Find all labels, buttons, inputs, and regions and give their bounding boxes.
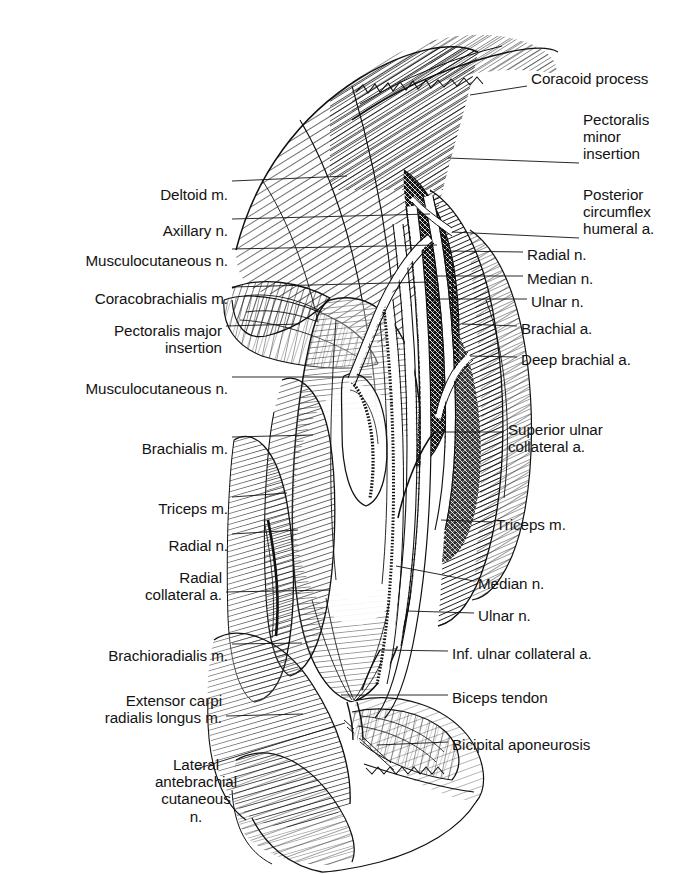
label-pcha: Posterior circumflex humeral a. bbox=[583, 186, 654, 238]
label-superior-ulnar: Superior ulnar collateral a. bbox=[508, 421, 603, 455]
label-ulnar-n-right: Ulnar n. bbox=[531, 293, 584, 310]
label-median-n-lower: Median n. bbox=[478, 575, 544, 592]
label-deltoid: Deltoid m. bbox=[160, 186, 228, 203]
label-radial-n-right: Radial n. bbox=[527, 246, 587, 263]
label-pec-major: Pectoralis major insertion bbox=[114, 322, 222, 356]
label-musculocutaneous-2: Musculocutaneous n. bbox=[85, 380, 228, 397]
label-radial-collateral: Radial collateral a. bbox=[145, 569, 222, 603]
label-coracobrachialis: Coracobrachialis m. bbox=[95, 290, 228, 307]
label-inf-ulnar: Inf. ulnar collateral a. bbox=[452, 645, 592, 662]
label-bicipital-apo: Bicipital aponeurosis bbox=[452, 736, 590, 753]
label-lacn: Lateral antebrachial cutaneous n. bbox=[86, 756, 306, 825]
label-axillary-n: Axillary n. bbox=[163, 222, 228, 239]
label-brachioradialis: Brachioradialis m. bbox=[108, 647, 228, 664]
label-deep-brachial-a: Deep brachial a. bbox=[521, 351, 631, 368]
label-biceps-tendon: Biceps tendon bbox=[452, 689, 548, 706]
label-pec-minor: Pectoralis minor insertion bbox=[583, 111, 649, 163]
label-musculocutaneous-1: Musculocutaneous n. bbox=[85, 252, 228, 269]
label-ulnar-n-lower: Ulnar n. bbox=[478, 607, 531, 624]
label-triceps-right: Triceps m. bbox=[496, 516, 566, 533]
label-brachial-a: Brachial a. bbox=[521, 320, 592, 337]
label-ecrl: Extensor carpi radialis longus m. bbox=[105, 692, 222, 726]
label-brachialis: Brachialis m. bbox=[142, 440, 228, 457]
label-radial-n-left: Radial n. bbox=[169, 537, 229, 554]
label-coracoid: Coracoid process bbox=[531, 70, 648, 87]
label-triceps-left: Triceps m. bbox=[158, 500, 228, 517]
label-median-n-right: Median n. bbox=[527, 270, 593, 287]
